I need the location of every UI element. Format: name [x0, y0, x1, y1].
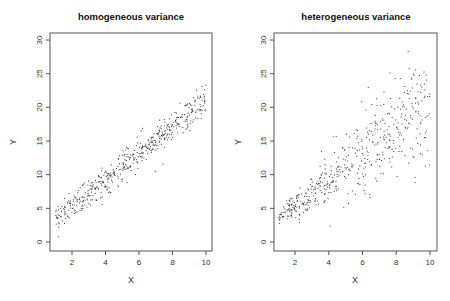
y-tick-label: 30 [35, 35, 44, 44]
y-tick-label: 10 [35, 170, 44, 179]
scatter-points [55, 85, 206, 238]
y-tick-label: 30 [259, 35, 268, 44]
y-tick-label: 25 [259, 69, 268, 78]
y-tick-label: 20 [35, 102, 44, 111]
y-tick-label: 25 [35, 69, 44, 78]
y-tick-label: 5 [259, 206, 268, 211]
y-tick-label: 0 [259, 239, 268, 244]
x-axis: 246810 [293, 251, 435, 267]
x-tick-label: 6 [360, 258, 365, 267]
y-tick-label: 0 [35, 239, 44, 244]
y-axis-label: Y [233, 139, 243, 145]
scatter-figure: homogeneous variance 246810 051015202530… [0, 0, 450, 301]
x-tick-label: 6 [137, 258, 142, 267]
x-tick-label: 8 [170, 258, 175, 267]
panel-heterogeneous: heterogeneous variance 246810 0510152025… [233, 11, 437, 285]
y-tick-label: 5 [35, 206, 44, 211]
y-tick-label: 10 [259, 170, 268, 179]
x-tick-label: 10 [426, 258, 435, 267]
panel-title: homogeneous variance [78, 11, 184, 22]
plot-frame [274, 33, 437, 251]
x-tick-label: 2 [293, 258, 298, 267]
y-axis: 051015202530 [35, 35, 50, 244]
panel-homogeneous: homogeneous variance 246810 051015202530… [8, 11, 212, 285]
x-tick-label: 4 [103, 258, 108, 267]
y-tick-label: 15 [35, 136, 44, 145]
scatter-points [278, 51, 430, 226]
plot-frame [50, 33, 212, 251]
y-axis: 051015202530 [259, 35, 274, 244]
x-axis-label: X [128, 275, 134, 285]
x-axis-label: X [352, 275, 358, 285]
x-tick-label: 8 [394, 258, 399, 267]
x-axis: 246810 [70, 251, 211, 267]
x-tick-label: 2 [70, 258, 75, 267]
x-tick-label: 10 [202, 258, 211, 267]
y-axis-label: Y [8, 139, 18, 145]
y-tick-label: 15 [259, 136, 268, 145]
x-tick-label: 4 [327, 258, 332, 267]
y-tick-label: 20 [259, 102, 268, 111]
panel-title: heterogeneous variance [301, 11, 410, 22]
